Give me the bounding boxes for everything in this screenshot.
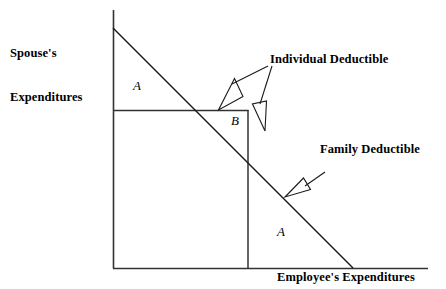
diagram-canvas: Spouse's Expenditures Employee's Expendi… bbox=[0, 0, 446, 289]
y-axis-label: Spouse's Expenditures bbox=[10, 16, 83, 134]
family-deductible-label: Family Deductible bbox=[320, 142, 420, 157]
family-deductible-arrow bbox=[285, 172, 325, 197]
region-label-a-lower: A bbox=[277, 224, 285, 239]
individual-deductible-arrow-right bbox=[253, 66, 273, 131]
region-label-a-upper: A bbox=[133, 78, 141, 93]
individual-deductible-label: Individual Deductible bbox=[270, 52, 388, 67]
y-axis-label-line-1: Spouse's bbox=[10, 46, 83, 61]
y-axis-label-line-2: Expenditures bbox=[10, 90, 83, 105]
region-label-b: B bbox=[231, 113, 239, 128]
x-axis-label: Employee's Expenditures bbox=[277, 270, 415, 285]
